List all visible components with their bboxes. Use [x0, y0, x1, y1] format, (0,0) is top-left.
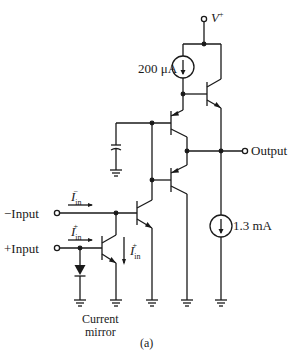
transistor-input-npn [137, 180, 152, 300]
ground-symbols [74, 300, 227, 306]
neg-input-terminal [54, 210, 59, 215]
output-terminal [242, 148, 247, 153]
capacitor [110, 123, 122, 176]
transistor-lower-pnp [152, 151, 187, 300]
i-in-plus-mirror-label: Iin+ [130, 244, 137, 261]
pos-input-terminal [54, 245, 59, 250]
circuit-schematic [0, 0, 293, 355]
current-mirror-label-line2: mirror [85, 326, 116, 338]
current-source-200ua-label: 200 μA [138, 62, 177, 75]
pos-input-label: +Input [4, 242, 39, 255]
transistor-output-pullup [207, 44, 221, 151]
vplus-terminal [201, 16, 206, 21]
current-source-1p3ma-label: 1.3 mA [233, 219, 272, 232]
transistor-upper-pnp [171, 110, 187, 151]
output-label: Output [251, 144, 287, 157]
current-mirror-label-line1: Current [82, 313, 119, 325]
i-in-plus-label: Iin+ [71, 225, 78, 242]
transistor-mirror-npn [102, 213, 116, 300]
vplus-label: V+ [211, 11, 223, 24]
diode [75, 248, 86, 300]
i-in-minus-label: Iin− [71, 190, 78, 207]
neg-input-label: −Input [4, 207, 39, 220]
figure-caption: (a) [140, 336, 153, 351]
